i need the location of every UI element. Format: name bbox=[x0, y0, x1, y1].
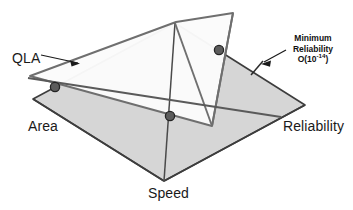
minimum-reliability-tick bbox=[251, 61, 263, 75]
qla-label: QLA bbox=[12, 50, 40, 66]
axis-label-area: Area bbox=[28, 118, 58, 134]
callout-order-base: O(10 bbox=[298, 54, 317, 64]
callout-line-3: O(10-14) bbox=[276, 54, 350, 65]
axis-label-reliability: Reliability bbox=[283, 118, 344, 134]
intersection-marker-speed bbox=[165, 111, 174, 120]
axis-label-speed: Speed bbox=[148, 185, 189, 201]
callout-line-1: Minimum bbox=[276, 33, 350, 44]
minimum-reliability-callout: Minimum Reliability O(10-14) bbox=[276, 33, 350, 65]
diagram-canvas bbox=[0, 0, 353, 210]
qla-design-space-figure: QLA Area Speed Reliability Minimum Relia… bbox=[0, 0, 353, 210]
callout-order-exponent: -14 bbox=[317, 52, 326, 59]
intersection-marker-reliability bbox=[214, 45, 223, 54]
intersection-marker-area bbox=[50, 82, 59, 91]
callout-line-2: Reliability bbox=[276, 44, 350, 55]
callout-order-close: ) bbox=[326, 54, 329, 64]
